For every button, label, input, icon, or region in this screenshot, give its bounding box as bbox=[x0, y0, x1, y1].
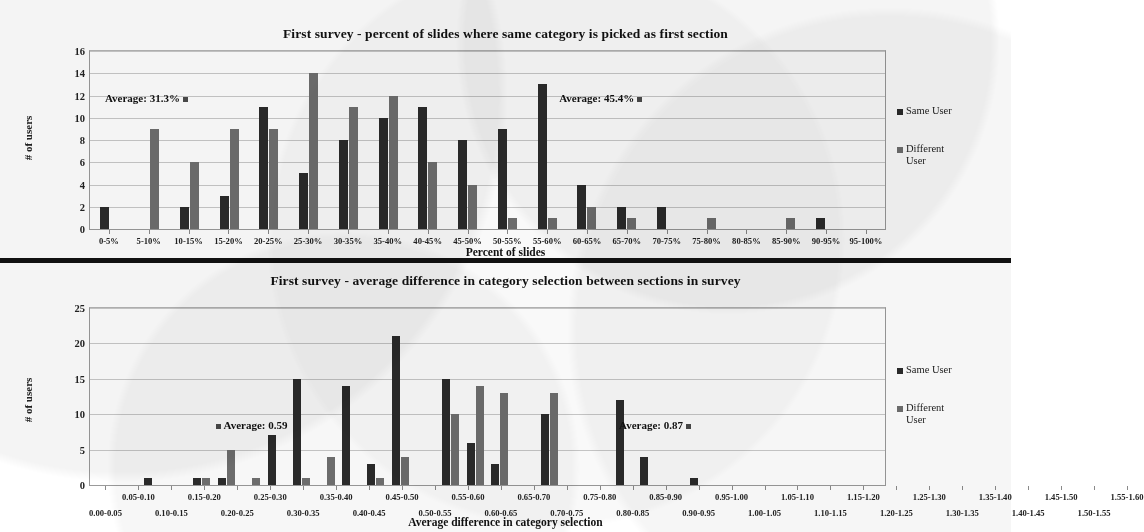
tick-mark bbox=[501, 486, 502, 490]
x-axis-tick: 95-100% bbox=[846, 230, 886, 246]
bar-category bbox=[786, 308, 811, 485]
bar-same-user bbox=[458, 140, 467, 229]
bar-same-user bbox=[491, 464, 499, 485]
bar-category bbox=[860, 308, 885, 485]
bar-same-user bbox=[442, 379, 450, 485]
x-axis-tick: 0.95-1.000.95-1.00 bbox=[715, 486, 748, 518]
bar-different-user bbox=[548, 218, 557, 229]
x-axis-tick: 85-90% bbox=[766, 230, 806, 246]
bar-different-user bbox=[476, 386, 484, 485]
x-axis-tick-label: 25-30% bbox=[288, 236, 328, 246]
tick-mark bbox=[149, 230, 150, 234]
bar-category bbox=[170, 51, 210, 229]
x-axis-tick: 0.10-0.150.10-0.15 bbox=[155, 486, 188, 518]
x-axis-tick-label: 0.35-0.40 bbox=[320, 492, 353, 502]
legend-label: Same User bbox=[906, 105, 952, 117]
bar-category bbox=[90, 308, 115, 485]
bar-same-user bbox=[342, 386, 350, 485]
x-axis-tick-label: 75-80% bbox=[687, 236, 727, 246]
tick-mark bbox=[667, 230, 668, 234]
x-axis-tick-label: 50-55% bbox=[487, 236, 527, 246]
x-axis-tick: 0.55-0.600.55-0.60 bbox=[451, 486, 484, 518]
bar-category bbox=[249, 51, 289, 229]
bar-different-user bbox=[786, 218, 795, 229]
tick-mark bbox=[547, 230, 548, 234]
tick-mark bbox=[600, 486, 601, 490]
tick-mark bbox=[587, 230, 588, 234]
bar-same-user bbox=[541, 414, 549, 485]
bar-same-user bbox=[220, 196, 229, 229]
bar-different-user bbox=[389, 96, 398, 230]
x-axis-tick-label: 0.65-0.70 bbox=[517, 492, 550, 502]
bar-different-user bbox=[428, 162, 437, 229]
tick-mark bbox=[105, 486, 106, 490]
bar-category bbox=[115, 308, 140, 485]
y-axis-tick-label: 5 bbox=[80, 444, 85, 455]
x-axis-tick: 20-25% bbox=[248, 230, 288, 246]
legend-item-diff[interactable]: Different User bbox=[897, 143, 962, 167]
bar-same-user bbox=[259, 107, 268, 229]
x-axis-tick-label: 0.45-0.50 bbox=[386, 492, 419, 502]
tick-mark bbox=[237, 486, 238, 490]
x-axis-tick-label: 1.25-1.30 bbox=[913, 492, 946, 502]
bar-category bbox=[408, 51, 448, 229]
x-axis-tick: 10-15% bbox=[169, 230, 209, 246]
average-annotation: Average: 45.4% bbox=[559, 92, 645, 104]
tick-mark bbox=[348, 230, 349, 234]
x-axis-tick: 25-30% bbox=[288, 230, 328, 246]
legend-swatch-icon bbox=[897, 368, 903, 374]
y-axis-tick-label: 14 bbox=[75, 68, 86, 79]
bar-category bbox=[209, 51, 249, 229]
tick-mark bbox=[1061, 486, 1062, 490]
y-axis-title: # of users bbox=[22, 108, 34, 168]
bar-different-user bbox=[302, 478, 310, 485]
bar-category bbox=[647, 51, 687, 229]
legend-label: Different User bbox=[906, 402, 962, 426]
average-annotation: Average: 31.3% bbox=[105, 92, 191, 104]
x-axis-tick-label: 65-70% bbox=[607, 236, 647, 246]
bar-category bbox=[736, 308, 761, 485]
bar-different-user bbox=[587, 207, 596, 229]
bar-different-user bbox=[627, 218, 636, 229]
bar-same-user bbox=[657, 207, 666, 229]
bar-category bbox=[686, 51, 726, 229]
x-axis-tick: 1.55-1.601.55-1.60 bbox=[1111, 486, 1144, 518]
annotation-marker-icon bbox=[686, 424, 691, 429]
legend-item-same[interactable]: Same User bbox=[897, 364, 962, 376]
tick-mark bbox=[204, 486, 205, 490]
x-axis-tick-label: 10-15% bbox=[169, 236, 209, 246]
tick-mark bbox=[746, 230, 747, 234]
bar-category bbox=[130, 51, 170, 229]
y-axis-tick-label: 10 bbox=[75, 112, 86, 123]
bar-category bbox=[661, 308, 686, 485]
tick-mark bbox=[1028, 486, 1029, 490]
bar-category bbox=[368, 51, 408, 229]
bar-different-user bbox=[468, 185, 477, 230]
x-axis-tick-label: 80-85% bbox=[727, 236, 767, 246]
y-axis-tick-label: 0 bbox=[80, 224, 85, 235]
bar-category bbox=[845, 51, 885, 229]
x-axis-tick: 0.85-0.900.85-0.90 bbox=[649, 486, 682, 518]
bar-category bbox=[537, 308, 562, 485]
annotation-label: Average: 31.3% bbox=[105, 92, 180, 104]
legend: Same UserDifferent User bbox=[897, 364, 962, 452]
bar-category bbox=[726, 51, 766, 229]
x-axis-tick: 0.90-0.950.90-0.95 bbox=[682, 486, 715, 518]
y-axis-tick-label: 25 bbox=[75, 303, 86, 314]
bar-different-user bbox=[707, 218, 716, 229]
bar-category bbox=[527, 51, 567, 229]
x-axis-tick: 5-10% bbox=[129, 230, 169, 246]
tick-mark bbox=[1127, 486, 1128, 490]
legend-item-diff[interactable]: Different User bbox=[897, 402, 962, 426]
x-axis-ticks: 0.00-0.050.00-0.050.05-0.100.05-0.100.10… bbox=[89, 486, 886, 518]
tick-mark bbox=[863, 486, 864, 490]
y-axis-tick-label: 8 bbox=[80, 135, 85, 146]
bar-same-user bbox=[218, 478, 226, 485]
x-axis-tick: 0-5% bbox=[89, 230, 129, 246]
x-axis-tick-label: 20-25% bbox=[248, 236, 288, 246]
bar-same-user bbox=[339, 140, 348, 229]
x-axis-tick-label: 1.50-1.55 bbox=[1078, 508, 1111, 518]
bar-different-user bbox=[202, 478, 210, 485]
legend-item-same[interactable]: Same User bbox=[897, 105, 962, 117]
x-axis-title: Percent of slides bbox=[0, 246, 1011, 258]
